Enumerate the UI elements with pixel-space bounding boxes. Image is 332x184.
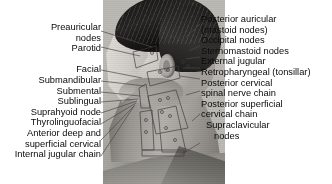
label-sublingual: Sublingual	[0, 96, 101, 107]
label-sternomastoid-nodes: Sternomastoid nodes	[201, 46, 332, 57]
label-posterior-auricular-line2: (mastoid nodes)	[201, 25, 332, 36]
anatomical-figure: Preauricular nodes Parotid Facial Subman…	[0, 0, 332, 184]
label-supraclavicular-line2: nodes	[201, 131, 332, 142]
label-column-right: Posterior auricular (mastoid nodes) Occi…	[201, 14, 332, 141]
label-preauricular-nodes-line2: nodes	[0, 33, 101, 44]
leader-lines-right	[180, 24, 200, 155]
label-posterior-superficial-line2: cervical chain	[201, 109, 332, 120]
label-facial: Facial	[0, 64, 101, 75]
label-retropharyngeal-tonsillar: Retropharyngeal (tonsillar)	[201, 67, 332, 78]
label-suprahyoid-node: Suprahyoid node	[0, 107, 101, 118]
label-parotid: Parotid	[0, 43, 101, 54]
label-thyrolinguofacial: Thyrolinguofacial	[0, 117, 101, 128]
label-anterior-deep-line1: Anterior deep and	[0, 128, 101, 139]
label-posterior-cervical-line1: Posterior cervical	[201, 78, 332, 89]
label-occipital-nodes: Occipital nodes	[201, 35, 332, 46]
label-anterior-deep-line2: superficial cervical	[0, 139, 101, 150]
leader-lines-left	[101, 31, 152, 156]
label-external-jugular: External jugular	[201, 56, 332, 67]
node-chain-markings	[133, 46, 190, 156]
label-preauricular-nodes-line1: Preauricular	[0, 22, 101, 33]
label-posterior-superficial-line1: Posterior superficial	[201, 99, 332, 110]
label-column-left: Preauricular nodes Parotid Facial Subman…	[0, 22, 101, 160]
label-submental: Submental	[0, 86, 101, 97]
label-posterior-cervical-line2: spinal nerve chain	[201, 88, 332, 99]
label-posterior-auricular-line1: Posterior auricular	[201, 14, 332, 25]
label-internal-jugular-chain: Internal jugular chain	[0, 149, 101, 160]
label-submandibular: Submandibular	[0, 75, 101, 86]
label-supraclavicular-line1: Supraclavicular	[201, 120, 332, 131]
